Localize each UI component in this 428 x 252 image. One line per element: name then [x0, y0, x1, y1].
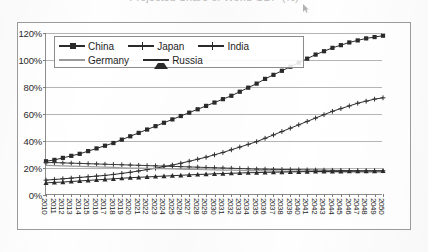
legend-swatch-russia: [143, 54, 169, 66]
x-axis-tick-label: 2036: [259, 198, 268, 214]
x-axis-labels: 2010201120122013201420152016201720182019…: [45, 198, 382, 246]
y-axis-tick-label: 40%: [24, 136, 42, 147]
square-marker-icon: [70, 43, 76, 49]
mouse-pointer-icon: [303, 4, 309, 13]
x-axis-tick-label: 2015: [82, 198, 91, 214]
x-axis-tick-label: 2038: [276, 198, 285, 214]
y-axis-tick-label: 100%: [19, 55, 43, 66]
x-axis-tick-label: 2029: [200, 198, 209, 214]
x-axis-tick-label: 2010: [40, 198, 49, 214]
chart-title: Projected Share of World GDP (%): [0, 0, 428, 3]
legend-item-japan[interactable]: Japan: [128, 39, 184, 53]
y-axis-labels: 0%20%40%60%80%100%120%: [0, 33, 42, 195]
legend-label: China: [88, 41, 114, 52]
legend-swatch-germany: [59, 54, 85, 66]
legend-label: Germany: [88, 55, 129, 66]
legend-item-germany[interactable]: Germany: [59, 53, 129, 67]
y-axis-tick-label: 120%: [19, 28, 43, 39]
x-axis-tick-label: 2031: [217, 198, 226, 214]
legend-label: India: [227, 41, 249, 52]
legend-swatch-japan: [128, 40, 154, 52]
triangle-marker-icon: [154, 57, 168, 69]
legend-row: ChinaJapanIndia: [59, 39, 299, 53]
x-axis-tick-label: 2045: [335, 198, 344, 214]
legend-row: GermanyRussia: [59, 53, 299, 67]
x-axis-tick-label: 2050: [377, 198, 386, 214]
y-axis-tick-label: 20%: [24, 163, 42, 174]
legend-swatch-india: [198, 40, 224, 52]
x-axis-tick-label: 2024: [158, 198, 167, 214]
chart-title-cropped: Projected Share of World GDP (%): [0, 0, 428, 11]
legend-item-russia[interactable]: Russia: [143, 53, 203, 67]
legend-swatch-china: [59, 40, 85, 52]
x-axis-tick-label: 2017: [99, 198, 108, 214]
x-axis-tick-label: 2048: [360, 198, 369, 214]
y-axis-tick-label: 60%: [24, 109, 42, 120]
legend-item-india[interactable]: India: [198, 39, 249, 53]
legend-label: Japan: [157, 41, 184, 52]
legend-item-china[interactable]: China: [59, 39, 114, 53]
plus-marker-icon: [209, 43, 215, 49]
chart-screenshot: Projected Share of World GDP (%) 0%20%40…: [0, 0, 428, 252]
plus-marker-icon: [139, 43, 145, 49]
y-axis-tick-label: 80%: [24, 82, 42, 93]
chart-legend: ChinaJapanIndia GermanyRussia: [54, 36, 304, 68]
x-axis-tick: [383, 194, 384, 197]
legend-label: Russia: [172, 55, 203, 66]
x-axis-tick-label: 2043: [318, 198, 327, 214]
x-axis-tick-label: 2022: [141, 198, 150, 214]
